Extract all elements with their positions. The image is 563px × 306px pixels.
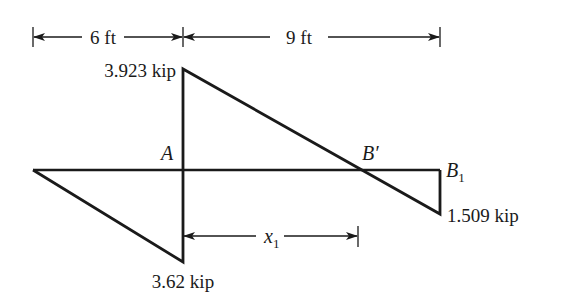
label-point-A: A (159, 142, 174, 164)
label-end-negative: 1.509 kip (447, 205, 519, 226)
shear-diagram: 6 ft 9 ft x1 3.923 kip 3.62 kip 1.509 ki… (0, 0, 563, 306)
label-max-positive: 3.923 kip (104, 60, 176, 81)
label-point-B1: B1 (446, 159, 465, 185)
label-point-B-prime: B′ (362, 142, 379, 164)
shear-curve (33, 69, 440, 262)
label-x1: x1 (263, 225, 279, 251)
label-9ft: 9 ft (286, 27, 313, 48)
label-max-negative: 3.62 kip (152, 271, 214, 292)
label-6ft: 6 ft (90, 27, 117, 48)
